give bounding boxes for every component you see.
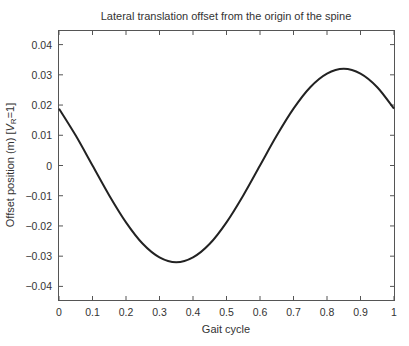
y-tick-label: −0.03	[25, 250, 52, 262]
y-axis-label-main: Offset position (m) [	[4, 131, 16, 227]
y-axis-label-tail: =1]	[4, 103, 16, 119]
y-tick-label: 0	[46, 160, 52, 172]
x-tick-label: 0	[56, 306, 62, 318]
plot-frame	[59, 31, 395, 301]
x-tick-label: 0.9	[353, 306, 368, 318]
x-tick-label: 0.8	[320, 306, 335, 318]
data-series-line	[59, 69, 394, 262]
x-tick-label: 0.2	[119, 306, 134, 318]
y-tick-label: 0.03	[32, 69, 53, 81]
y-tick-label: −0.04	[25, 280, 52, 292]
x-tick-label: 0.3	[152, 306, 167, 318]
x-tick-label: 0.1	[85, 306, 100, 318]
y-tick-label: 0.02	[32, 99, 53, 111]
y-tick-label: −0.01	[25, 190, 52, 202]
y-tick-label: −0.02	[25, 220, 52, 232]
y-axis-label: Offset position (m) [VR=1]	[4, 103, 18, 228]
x-tick-label: 0.6	[253, 306, 268, 318]
chart-svg: Lateral translation offset from the orig…	[0, 0, 409, 346]
x-axis-ticks: 00.10.20.30.40.50.60.70.80.91	[56, 31, 397, 319]
x-tick-label: 0.7	[286, 306, 301, 318]
y-axis-ticks: 0.040.030.020.010−0.01−0.02−0.03−0.04	[25, 39, 394, 293]
y-tick-label: 0.04	[32, 39, 53, 51]
x-tick-label: 0.5	[219, 306, 234, 318]
y-tick-label: 0.01	[32, 129, 53, 141]
chart-title: Lateral translation offset from the orig…	[101, 10, 352, 22]
x-axis-label: Gait cycle	[202, 323, 250, 335]
x-tick-label: 0.4	[186, 306, 201, 318]
x-tick-label: 1	[391, 306, 397, 318]
